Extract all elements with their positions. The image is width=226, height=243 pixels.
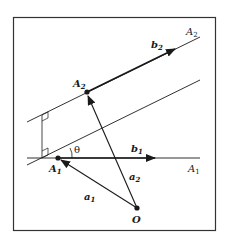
parallel-line: [27, 80, 200, 165]
label-vector-b1: b1: [131, 143, 143, 156]
angle-theta-arc: [70, 148, 72, 158]
point-a1: [55, 155, 60, 160]
label-angle-theta: θ: [74, 144, 80, 155]
frame-border: [14, 18, 216, 231]
point-o: [134, 205, 139, 210]
label-vector-a1: a1: [84, 191, 95, 204]
vector-a1: [61, 160, 137, 208]
vector-b2: [87, 49, 175, 92]
label-point-a2: A2: [72, 78, 86, 91]
label-point-o: O: [132, 214, 141, 225]
label-line-a2: A2: [185, 26, 198, 39]
label-vector-a2: a2: [129, 171, 140, 184]
vector-diagram: A2 A1 A2 A1 O b2 b1 a1 a2 θ: [0, 0, 226, 243]
right-angle-marker-bottom: [42, 148, 48, 158]
right-angle-marker-top: [42, 112, 48, 121]
label-point-a1: A1: [48, 163, 62, 176]
label-vector-b2: b2: [151, 39, 163, 52]
label-line-a1: A1: [187, 163, 200, 176]
vector-a2: [88, 96, 137, 208]
